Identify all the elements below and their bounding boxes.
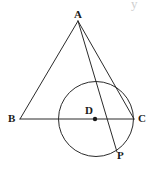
geometry-figure: y A B C D P [0, 0, 154, 169]
segment-ap [78, 21, 117, 152]
vertex-label-a: A [74, 9, 82, 20]
segment-ab [20, 21, 78, 119]
point-label-p: P [117, 150, 124, 161]
vertex-label-b: B [8, 113, 15, 124]
vertex-label-c: C [138, 113, 146, 124]
center-point-d [93, 117, 97, 121]
center-label-d: D [85, 105, 93, 116]
geometry-canvas [0, 0, 154, 169]
